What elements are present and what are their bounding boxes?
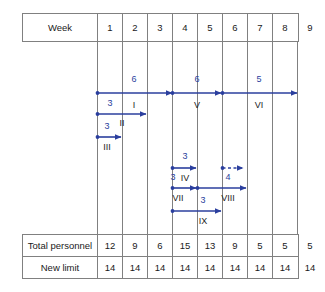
header-week-4: 4 bbox=[182, 22, 187, 33]
activity-II-personnel: 3 bbox=[107, 98, 112, 108]
new-limit-week-7: 14 bbox=[255, 262, 266, 273]
new-limit-week-3: 14 bbox=[155, 262, 166, 273]
plot-grid bbox=[98, 42, 298, 235]
activity-II-id: II bbox=[119, 118, 124, 128]
header-week-8: 8 bbox=[282, 22, 287, 33]
activity-VI-personnel: 5 bbox=[256, 74, 261, 84]
total-personnel-week-4: 15 bbox=[180, 240, 191, 251]
total-personnel-week-8: 5 bbox=[282, 240, 287, 251]
header-week-5: 5 bbox=[207, 22, 212, 33]
total-personnel-week-2: 9 bbox=[132, 240, 137, 251]
total-personnel-week-6: 9 bbox=[232, 240, 237, 251]
header-week-7: 7 bbox=[257, 22, 262, 33]
header-week-3: 3 bbox=[157, 22, 162, 33]
activity-IV-personnel: 3 bbox=[182, 151, 187, 161]
activity-VIII-personnel: 4 bbox=[225, 172, 230, 182]
footer-table: Total personnel 12 9 6 15 13 9 5 5 5 New… bbox=[23, 235, 316, 279]
header-week-6: 6 bbox=[232, 22, 237, 33]
activity-VI-id: VI bbox=[255, 100, 264, 110]
activity-I-personnel: 6 bbox=[131, 74, 136, 84]
activity-IX-personnel: 3 bbox=[200, 195, 205, 205]
footer-row-label-new-limit: New limit bbox=[41, 262, 80, 273]
activity-IX-id: IX bbox=[199, 216, 208, 226]
activity-V-personnel: 6 bbox=[194, 74, 199, 84]
footer-row-label-total-personnel: Total personnel bbox=[28, 240, 92, 251]
header-table: Week 1 2 3 4 5 6 7 8 9 bbox=[23, 14, 313, 42]
activity-VII-personnel: 3 bbox=[170, 172, 175, 182]
activity-bar-II: 3 II bbox=[96, 98, 146, 128]
new-limit-week-8: 14 bbox=[280, 262, 291, 273]
header-week-9: 9 bbox=[307, 22, 312, 33]
activity-bar-III: 3 III bbox=[96, 121, 121, 152]
total-personnel-week-3: 6 bbox=[157, 240, 162, 251]
total-personnel-week-1: 12 bbox=[105, 240, 116, 251]
activity-VIII-id: VIII bbox=[221, 193, 235, 203]
activity-VII-id: VII bbox=[172, 193, 183, 203]
new-limit-week-1: 14 bbox=[105, 262, 116, 273]
activity-bar-V: 6 V bbox=[171, 74, 221, 110]
activity-I-id: I bbox=[133, 100, 136, 110]
total-personnel-week-7: 5 bbox=[257, 240, 262, 251]
gantt-svg: Week 1 2 3 4 5 6 7 8 9 bbox=[0, 0, 325, 292]
header-week-1: 1 bbox=[107, 22, 112, 33]
activity-III-id: III bbox=[103, 142, 111, 152]
new-limit-week-6: 14 bbox=[230, 262, 241, 273]
header-row-label: Week bbox=[48, 22, 72, 33]
activity-IV-id: IV bbox=[181, 173, 190, 183]
activity-bar-float bbox=[221, 166, 243, 170]
new-limit-week-2: 14 bbox=[130, 262, 141, 273]
gantt-chart: Week 1 2 3 4 5 6 7 8 9 bbox=[0, 0, 325, 292]
total-personnel-week-9: 5 bbox=[307, 240, 312, 251]
new-limit-week-5: 14 bbox=[205, 262, 216, 273]
new-limit-week-9: 14 bbox=[305, 262, 316, 273]
new-limit-week-4: 14 bbox=[180, 262, 191, 273]
activity-bar-VI: 5 VI bbox=[221, 74, 297, 110]
activity-III-personnel: 3 bbox=[104, 121, 109, 131]
activity-V-id: V bbox=[194, 100, 200, 110]
total-personnel-week-5: 13 bbox=[205, 240, 216, 251]
header-week-2: 2 bbox=[132, 22, 137, 33]
